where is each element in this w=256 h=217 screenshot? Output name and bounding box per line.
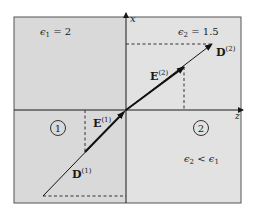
x-axis-label: x xyxy=(130,13,136,24)
svg-text:2: 2 xyxy=(198,123,204,134)
z-axis-label: z xyxy=(234,111,240,121)
svg-text:1: 1 xyxy=(55,123,61,134)
dielectric-boundary-diagram: x z ϵ1 = 2 ϵ2 = 1.5 ϵ2 < ϵ1 1 xyxy=(0,0,256,217)
